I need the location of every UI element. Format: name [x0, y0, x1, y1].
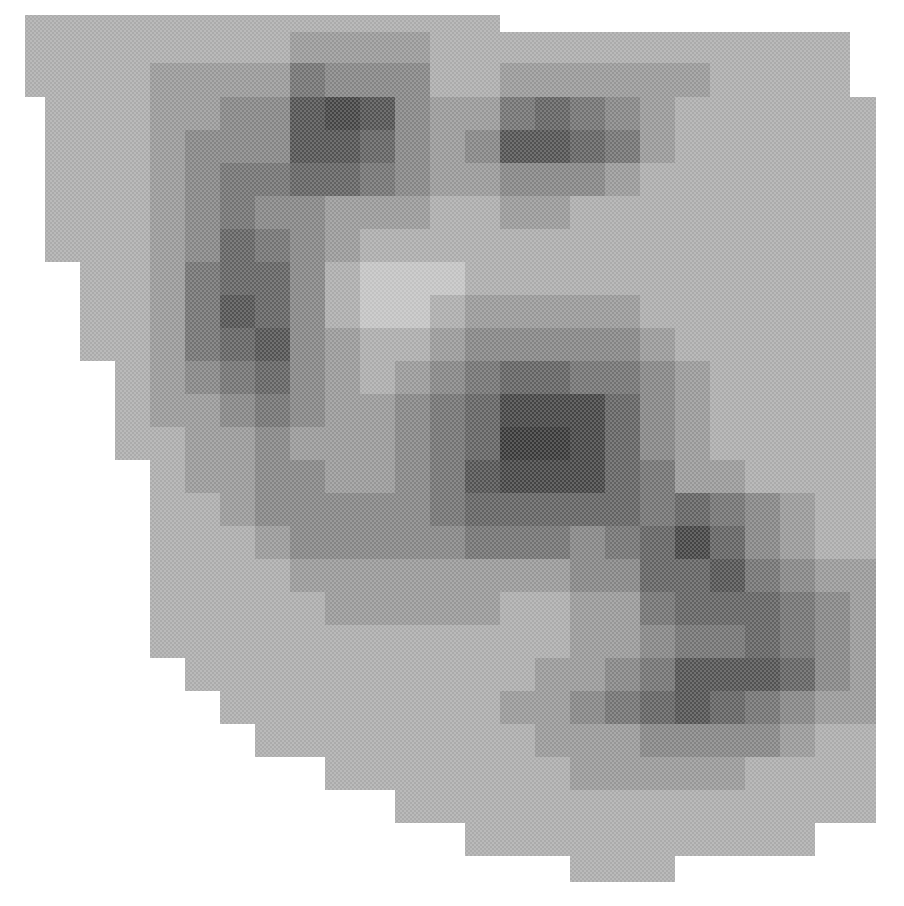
heatmap-cell	[675, 658, 710, 691]
heatmap-cell	[395, 328, 430, 361]
heatmap-cell	[780, 493, 815, 526]
heatmap-cell	[535, 32, 570, 63]
heatmap-cell	[290, 361, 325, 394]
heatmap-cell	[80, 163, 115, 196]
heatmap-cell	[710, 757, 745, 790]
heatmap-cell	[185, 361, 220, 394]
heatmap-cell	[780, 592, 815, 625]
heatmap-cell	[780, 163, 815, 196]
heatmap-cell	[850, 790, 876, 823]
heatmap-cell	[395, 658, 430, 691]
heatmap-cell	[815, 724, 850, 757]
heatmap-cell	[80, 196, 115, 229]
heatmap-cell	[430, 97, 465, 130]
heatmap-cell	[850, 361, 876, 394]
heatmap-cell	[290, 460, 325, 493]
heatmap-cell	[150, 394, 185, 427]
heatmap-cell	[675, 790, 710, 823]
heatmap-cell	[780, 757, 815, 790]
heatmap-cell	[850, 394, 876, 427]
heatmap-cell	[675, 460, 710, 493]
heatmap-cell	[185, 32, 220, 63]
heatmap-cell	[570, 361, 605, 394]
heatmap-cell	[780, 361, 815, 394]
heatmap-cell	[640, 196, 675, 229]
heatmap-cell	[255, 493, 290, 526]
heatmap-cell	[710, 658, 745, 691]
heatmap-cell	[500, 790, 535, 823]
heatmap-cell	[150, 625, 185, 658]
heatmap-cell	[710, 130, 745, 163]
heatmap-cell	[780, 790, 815, 823]
heatmap-cell	[640, 32, 675, 63]
heatmap-cell	[220, 32, 255, 63]
heatmap-cell	[570, 592, 605, 625]
heatmap-cell	[745, 63, 780, 97]
heatmap-cell	[605, 559, 640, 592]
heatmap-cell	[640, 526, 675, 559]
heatmap-cell	[220, 691, 255, 724]
heatmap-cell	[605, 97, 640, 130]
heatmap-cell	[745, 526, 780, 559]
heatmap-cell	[535, 592, 570, 625]
heatmap-cell	[255, 15, 290, 32]
heatmap-cell	[115, 361, 150, 394]
heatmap-cell	[465, 361, 500, 394]
heatmap-cell	[185, 394, 220, 427]
heatmap-cell	[395, 460, 430, 493]
heatmap-cell	[325, 229, 360, 262]
heatmap-cell	[850, 691, 876, 724]
heatmap-cell	[640, 856, 675, 882]
heatmap-cell	[500, 724, 535, 757]
heatmap-cell	[640, 625, 675, 658]
heatmap-cell	[255, 262, 290, 295]
heatmap-cell	[570, 130, 605, 163]
heatmap-cell	[745, 493, 780, 526]
heatmap-cell	[185, 559, 220, 592]
heatmap-cell	[360, 163, 395, 196]
heatmap-cell	[780, 130, 815, 163]
heatmap-cell	[80, 63, 115, 97]
heatmap-cell	[500, 658, 535, 691]
heatmap-cell	[150, 427, 185, 460]
heatmap-cell	[465, 823, 500, 856]
heatmap-cell	[745, 592, 780, 625]
heatmap-cell	[745, 295, 780, 328]
heatmap-cell	[570, 32, 605, 63]
heatmap-cell	[430, 526, 465, 559]
heatmap-cell	[220, 427, 255, 460]
heatmap-cell	[850, 295, 876, 328]
heatmap-cell	[220, 262, 255, 295]
heatmap-cell	[500, 163, 535, 196]
heatmap-cell	[465, 658, 500, 691]
heatmap-cell	[430, 295, 465, 328]
heatmap-cell	[185, 460, 220, 493]
heatmap-cell	[255, 229, 290, 262]
heatmap-cell	[570, 823, 605, 856]
heatmap-cell	[185, 526, 220, 559]
heatmap-cell	[80, 328, 115, 361]
heatmap-cell	[605, 295, 640, 328]
heatmap-cell	[465, 427, 500, 460]
heatmap-cell	[605, 63, 640, 97]
heatmap-cell	[710, 427, 745, 460]
heatmap-cell	[325, 625, 360, 658]
heatmap-cell	[465, 15, 500, 32]
heatmap-cell	[815, 493, 850, 526]
heatmap-cell	[745, 757, 780, 790]
heatmap-cell	[80, 229, 115, 262]
heatmap-cell	[605, 32, 640, 63]
heatmap-cell	[150, 163, 185, 196]
heatmap-cell	[465, 625, 500, 658]
heatmap-cell	[570, 63, 605, 97]
heatmap-cell	[710, 823, 745, 856]
heatmap-cell	[500, 559, 535, 592]
heatmap-cell	[220, 328, 255, 361]
heatmap-cell	[605, 757, 640, 790]
heatmap-cell	[395, 361, 430, 394]
heatmap-cell	[115, 163, 150, 196]
heatmap-cell	[465, 163, 500, 196]
heatmap-cell	[535, 493, 570, 526]
heatmap-cell	[815, 97, 850, 130]
heatmap-cell	[255, 658, 290, 691]
